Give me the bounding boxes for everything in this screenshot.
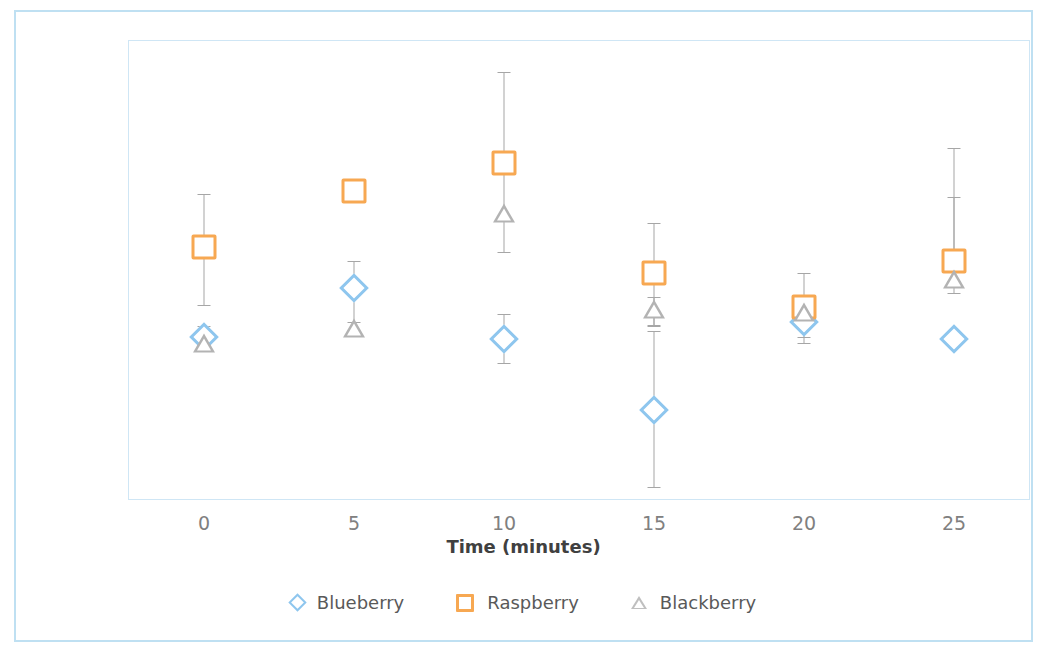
x-axis-tick-label: 20 — [792, 512, 816, 534]
x-axis-tick-label: 0 — [198, 512, 210, 534]
raspberry-data-point — [342, 178, 367, 203]
triangle-marker-icon — [631, 596, 647, 609]
blackberry-data-point — [493, 204, 515, 223]
raspberry-data-point — [642, 261, 667, 286]
error-bar-cap — [798, 337, 811, 338]
x-axis-tick-label: 10 — [492, 512, 516, 534]
plot-inner: 58534843383328 0510152025 — [129, 41, 1029, 499]
error-bar-cap — [948, 293, 961, 294]
error-bar-cap — [648, 297, 661, 298]
blackberry-data-point — [943, 269, 965, 288]
x-axis-tick-label: 15 — [642, 512, 666, 534]
raspberry-data-point — [192, 235, 217, 260]
error-bar-cap — [948, 197, 961, 198]
raspberry-data-point — [492, 151, 517, 176]
error-bar-cap — [498, 252, 511, 253]
error-bar-cap — [348, 261, 361, 262]
plot-area: 58534843383328 0510152025 — [128, 40, 1030, 500]
error-bar-cap — [948, 148, 961, 149]
error-bar-cap — [648, 223, 661, 224]
blackberry-data-point — [643, 300, 665, 319]
diamond-marker-icon — [288, 593, 306, 611]
x-axis-title: Time (minutes) — [16, 536, 1031, 557]
error-bar-cap — [648, 487, 661, 488]
blackberry-data-point — [193, 333, 215, 352]
x-axis-tick-label: 25 — [942, 512, 966, 534]
chart-frame: L* Color parameter 58534843383328 051015… — [14, 10, 1033, 642]
legend-item-blueberry[interactable]: Blueberry — [291, 592, 404, 613]
error-bar-cap — [198, 305, 211, 306]
error-bar-cap — [648, 326, 661, 327]
blackberry-data-point — [343, 318, 365, 337]
blackberry-data-point — [793, 303, 815, 322]
error-bar-cap — [498, 72, 511, 73]
y-axis-tick-group: 58534843383328 — [129, 41, 1029, 499]
error-bar-cap — [498, 363, 511, 364]
x-axis-tick-label: 5 — [348, 512, 360, 534]
error-bar-cap — [798, 343, 811, 344]
legend-item-raspberry[interactable]: Raspberry — [456, 592, 579, 613]
error-bar-cap — [798, 273, 811, 274]
legend-label: Blackberry — [660, 592, 756, 613]
legend-label: Raspberry — [487, 592, 579, 613]
square-marker-icon — [456, 594, 474, 612]
error-bar-cap — [198, 194, 211, 195]
legend-label: Blueberry — [317, 592, 404, 613]
error-bar-cap — [498, 314, 511, 315]
chart-legend: BlueberryRaspberryBlackberry — [16, 592, 1031, 613]
error-bar-cap — [648, 331, 661, 332]
legend-item-blackberry[interactable]: Blackberry — [631, 592, 756, 613]
